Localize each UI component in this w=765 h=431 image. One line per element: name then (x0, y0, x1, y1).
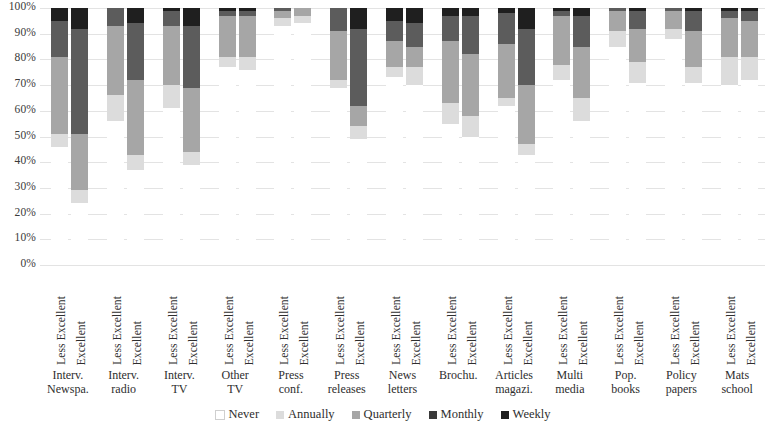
bar-axis-label: Excellent (575, 321, 592, 365)
bar-axis-label: Less Excellent (667, 296, 684, 365)
bar-segment-monthly (498, 13, 515, 44)
bar-segment-weekly (219, 8, 236, 11)
bar-segment-never (51, 147, 68, 265)
category-label-line: Pop. (598, 368, 654, 382)
category-label: Interv.Newspa. (40, 368, 96, 396)
bar-segment-quarterly (163, 26, 180, 85)
category-label-line: Other (207, 368, 263, 382)
bar-segment-monthly (51, 21, 68, 57)
bar-segment-never (330, 88, 347, 265)
legend-item: Quarterly (352, 407, 412, 422)
bar-segment-annually (51, 134, 68, 147)
bar-segment-never (71, 203, 88, 265)
category-label: Policypapers (653, 368, 709, 396)
bar-axis-label: Less Excellent (555, 296, 572, 365)
bar-segment-never (183, 165, 200, 265)
bar-segment-quarterly (386, 41, 403, 67)
bar-axis-label: Less Excellent (388, 296, 405, 365)
legend-item: Never (215, 407, 260, 422)
stacked-bar-chart: 100%90%80%70%60%50%40%30%20%10%0% Less E… (0, 0, 765, 431)
stacked-bar (127, 8, 144, 265)
bar-axis-label: Excellent (687, 321, 704, 365)
category-label-line: Mats (709, 368, 765, 382)
bar-segment-monthly (741, 11, 758, 21)
category-label-line: Interv. (96, 368, 152, 382)
bar-axis-label: Less Excellent (332, 296, 349, 365)
category-label-line: Newspa. (40, 382, 96, 396)
bar-segment-weekly (163, 8, 180, 11)
bar-segment-annually (685, 67, 702, 82)
y-axis-tick-label: 30% (15, 181, 36, 193)
bar-segment-quarterly (183, 88, 200, 152)
category-label: Newsletters (375, 368, 431, 396)
bar-group (375, 8, 431, 265)
bar-segment-never (219, 67, 236, 265)
bar-segment-monthly (330, 8, 347, 31)
bar-group (430, 8, 486, 265)
bar-axis-label: Excellent (185, 321, 202, 365)
bar-segment-monthly (107, 8, 124, 26)
stacked-bar (685, 8, 702, 265)
category-label-line: Brochu. (430, 368, 486, 382)
bar-segment-annually (219, 57, 236, 67)
stacked-bar (741, 8, 758, 265)
bar-axis-label: Excellent (296, 321, 313, 365)
bar-segment-annually (406, 67, 423, 85)
y-axis-tick-label: 20% (15, 207, 36, 219)
bar-segment-quarterly (239, 16, 256, 57)
bar-segment-weekly (741, 8, 758, 11)
legend-item: Monthly (429, 407, 484, 422)
stacked-bar (721, 8, 738, 265)
category-label: Interv.radio (96, 368, 152, 396)
y-axis-tick-label: 90% (15, 27, 36, 39)
bar-axis-label: Less Excellent (165, 296, 182, 365)
category-label: Interv.TV (152, 368, 208, 396)
category-label-line: magazi. (486, 382, 542, 396)
stacked-bar (462, 8, 479, 265)
bar-segment-never (274, 26, 291, 265)
bar-segment-weekly (406, 8, 423, 23)
category-label-line: books (598, 382, 654, 396)
bar-segment-never (665, 39, 682, 265)
bar-segment-weekly (498, 8, 515, 13)
bar-segment-monthly (274, 8, 291, 11)
bar-segment-annually (127, 155, 144, 170)
legend-swatch-annually (276, 411, 284, 419)
category-label: Pop.books (598, 368, 654, 396)
bar-segment-monthly (518, 29, 535, 86)
stacked-bar (71, 8, 88, 265)
bar-segment-weekly (629, 8, 646, 11)
bar-segment-quarterly (406, 47, 423, 68)
bar-segment-weekly (685, 8, 702, 11)
category-label-line: Press (319, 368, 375, 382)
legend-swatch-monthly (429, 411, 437, 419)
bar-axis-label: Less Excellent (611, 296, 628, 365)
bar-axis-label: Excellent (129, 321, 146, 365)
bar-segment-never (573, 121, 590, 265)
bar-axis-label: Excellent (464, 321, 481, 365)
bar-segment-never (553, 80, 570, 265)
bar-segment-annually (462, 116, 479, 137)
bar-axis-label: Excellent (408, 321, 425, 365)
bar-segment-annually (553, 65, 570, 80)
y-axis-tick-label: 60% (15, 104, 36, 116)
bar-group (319, 8, 375, 265)
stacked-bar (183, 8, 200, 265)
bar-segment-annually (721, 57, 738, 85)
bar-axis-label: Less Excellent (444, 296, 461, 365)
category-label-line: conf. (263, 382, 319, 396)
category-label: Matsschool (709, 368, 765, 396)
bar-segment-quarterly (665, 11, 682, 29)
bar-segment-annually (386, 67, 403, 77)
bar-segment-weekly (553, 8, 570, 11)
bar-segment-weekly (462, 8, 479, 16)
category-label-line: releases (319, 382, 375, 396)
stacked-bar (274, 8, 291, 265)
legend-label: Quarterly (364, 407, 412, 422)
stacked-bar (553, 8, 570, 265)
bar-segment-never (442, 124, 459, 265)
category-label-line: media (542, 382, 598, 396)
stacked-bar (442, 8, 459, 265)
bar-segment-never (107, 121, 124, 265)
bar-segment-weekly (442, 8, 459, 16)
